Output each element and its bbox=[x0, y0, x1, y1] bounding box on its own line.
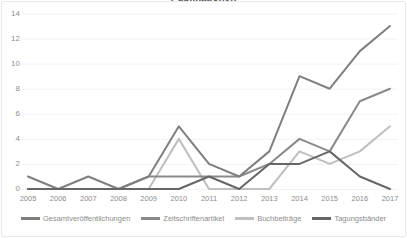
legend-swatch bbox=[235, 217, 254, 220]
line-chart: Publikationen 14121086420 20052006200720… bbox=[0, 0, 407, 238]
legend-item[interactable]: Zeitschriftenartikel bbox=[141, 214, 224, 223]
legend-swatch bbox=[312, 217, 331, 220]
legend-swatch bbox=[21, 217, 40, 220]
legend-label: Tagungsbänder bbox=[334, 214, 386, 223]
legend-label: Gesamtveröffentlichungen bbox=[43, 214, 130, 223]
series-line bbox=[28, 89, 390, 189]
legend-label: Zeitschriftenartikel bbox=[163, 214, 224, 223]
legend-swatch bbox=[141, 217, 160, 220]
chart-legend: GesamtveröffentlichungenZeitschriftenart… bbox=[0, 214, 407, 223]
legend-item[interactable]: Buchbeiträge bbox=[235, 214, 301, 223]
legend-label: Buchbeiträge bbox=[257, 214, 301, 223]
legend-item[interactable]: Tagungsbänder bbox=[312, 214, 386, 223]
plot-area bbox=[0, 0, 407, 238]
series-line bbox=[28, 151, 390, 189]
legend-item[interactable]: Gesamtveröffentlichungen bbox=[21, 214, 130, 223]
